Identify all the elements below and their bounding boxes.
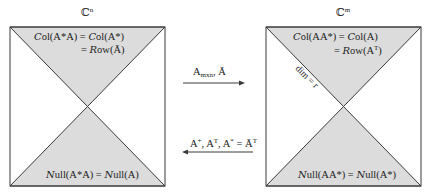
forward-arrow [183, 81, 245, 86]
forward-arrow-label: Amxn, Ā [193, 67, 226, 79]
left-null-space-label: Null(A*A) = Null(A) [46, 170, 139, 181]
right-null-space-label: Null(AA*) = Null(A*) [298, 170, 396, 181]
diagram-canvas [0, 0, 428, 193]
left-space-title: ℂn [81, 7, 93, 18]
right-col-space-label: Col(AA*) = Col(A) [293, 32, 378, 43]
backward-arrow [182, 150, 253, 155]
right-row-space-label: = Row(AT) [334, 45, 382, 57]
backward-arrow-label: A+, AT, A* = ĀT [190, 138, 257, 150]
left-col-space-label: Col(A*A) = Col(A*) [34, 32, 124, 43]
left-row-space-label: = Row(Ā) [81, 45, 125, 56]
right-space-title: ℂm [336, 7, 350, 18]
